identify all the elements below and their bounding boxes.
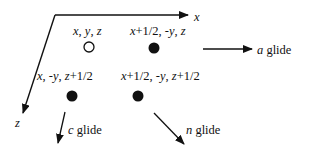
filled-circle-marker <box>133 91 144 102</box>
filled-circle-marker <box>67 91 78 102</box>
c-glide-label: c glide <box>68 123 102 137</box>
c-glide-arrow <box>58 112 65 143</box>
position-label-3: x, -y, z+1/2 <box>36 69 93 83</box>
n-glide-arrow <box>154 113 184 144</box>
position-label-1: x, y, z <box>72 24 102 38</box>
position-label-4: x+1/2, -y, z+1/2 <box>120 69 200 83</box>
filled-circle-marker <box>149 43 160 54</box>
z-axis-arrow <box>23 15 55 113</box>
z-axis-label: z <box>14 116 20 130</box>
position-label-2: x+1/2, -y, z <box>129 24 186 38</box>
n-glide-label: n glide <box>186 123 221 137</box>
a-glide-label: a glide <box>257 43 292 57</box>
x-axis-label: x <box>193 10 200 24</box>
open-circle-marker <box>84 42 94 52</box>
glide-plane-diagram: x z x, y, z x+1/2, -y, z x, -y, z+1/2 x+… <box>0 0 312 154</box>
